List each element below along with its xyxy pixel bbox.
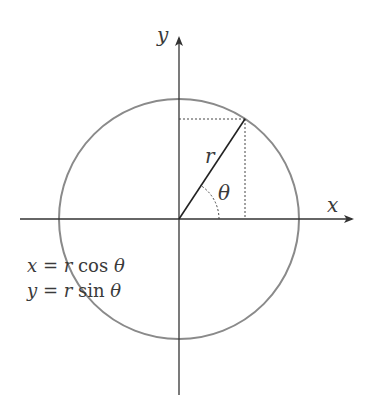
equation-x: x = r cos θ xyxy=(27,255,125,276)
radius-label: r xyxy=(205,144,216,168)
x-axis-label: x xyxy=(327,193,338,217)
equation-y: y = r sin θ xyxy=(26,280,121,301)
angle-label: θ xyxy=(218,181,230,205)
radius-line xyxy=(179,119,245,219)
angle-arc xyxy=(200,185,219,219)
diagram-canvas: y x r θ x = r cos θ y = r sin θ xyxy=(0,0,372,411)
y-axis-label: y xyxy=(156,23,169,47)
polar-coordinates-diagram: y x r θ x = r cos θ y = r sin θ xyxy=(0,0,372,411)
